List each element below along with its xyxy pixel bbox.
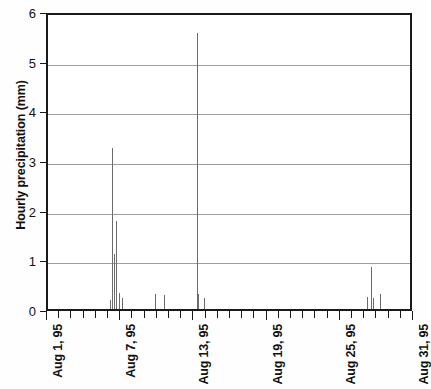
x-axis-major-tick xyxy=(192,311,193,320)
y-axis-tick-label: 1 xyxy=(8,254,36,269)
x-axis-major-tick xyxy=(46,311,47,320)
precipitation-bar xyxy=(380,294,381,309)
x-axis-major-tick xyxy=(266,311,267,320)
x-axis-minor-tick xyxy=(375,311,376,318)
plot-area xyxy=(46,13,412,311)
precipitation-bar xyxy=(110,300,111,309)
precipitation-bar xyxy=(164,295,165,309)
x-axis-minor-tick xyxy=(388,311,389,318)
x-axis-minor-tick xyxy=(58,311,59,318)
x-axis-minor-tick xyxy=(156,311,157,318)
x-axis-minor-tick xyxy=(180,311,181,318)
x-axis-minor-tick xyxy=(400,311,401,318)
x-axis-minor-tick xyxy=(351,311,352,318)
y-axis-tick-label: 4 xyxy=(8,105,36,120)
x-axis-minor-tick xyxy=(241,311,242,318)
x-axis-minor-tick xyxy=(302,311,303,318)
x-axis-major-tick xyxy=(119,311,120,320)
x-axis-minor-tick xyxy=(229,311,230,318)
x-axis-minor-tick xyxy=(290,311,291,318)
x-axis-major-tick xyxy=(412,311,413,320)
precipitation-bar xyxy=(116,221,117,309)
precipitation-bar xyxy=(204,298,205,309)
x-axis-major-tick xyxy=(339,311,340,320)
x-axis-minor-tick xyxy=(95,311,96,318)
y-axis-tick-label: 2 xyxy=(8,204,36,219)
precipitation-bar xyxy=(198,294,199,309)
x-axis-tick-label: Aug 1, 95 xyxy=(51,324,65,378)
x-axis-minor-tick xyxy=(327,311,328,318)
precipitation-bar xyxy=(367,297,368,309)
precipitation-bar xyxy=(197,33,198,309)
x-axis-minor-tick xyxy=(168,311,169,318)
precipitation-bar xyxy=(119,293,120,309)
y-axis-tick-label: 6 xyxy=(8,6,36,21)
x-axis-tick-label: Aug 31, 95 xyxy=(417,324,431,385)
y-axis-tick-label: 5 xyxy=(8,55,36,70)
precipitation-bar xyxy=(373,298,374,309)
precipitation-bar xyxy=(155,294,156,309)
x-axis-minor-tick xyxy=(314,311,315,318)
x-axis-minor-tick xyxy=(253,311,254,318)
x-axis-minor-tick xyxy=(107,311,108,318)
precipitation-bar xyxy=(114,254,115,309)
y-axis-tick-label: 0 xyxy=(8,304,36,319)
x-axis-minor-tick xyxy=(363,311,364,318)
precipitation-bar xyxy=(122,298,123,309)
x-axis-minor-tick xyxy=(217,311,218,318)
x-axis-tick-label: Aug 19, 95 xyxy=(271,324,285,385)
x-axis-minor-tick xyxy=(144,311,145,318)
data-bars xyxy=(48,15,410,309)
precipitation-bar xyxy=(112,148,113,309)
x-axis-tick-label: Aug 7, 95 xyxy=(124,324,138,378)
x-axis-tick-label: Aug 25, 95 xyxy=(344,324,358,385)
x-axis-tick-label: Aug 13, 95 xyxy=(197,324,211,385)
x-axis-minor-tick xyxy=(131,311,132,318)
x-axis-minor-tick xyxy=(205,311,206,318)
x-axis-minor-tick xyxy=(83,311,84,318)
x-axis-minor-tick xyxy=(70,311,71,318)
y-axis-tick-label: 3 xyxy=(8,155,36,170)
x-axis-minor-tick xyxy=(278,311,279,318)
precipitation-bar xyxy=(371,267,372,309)
